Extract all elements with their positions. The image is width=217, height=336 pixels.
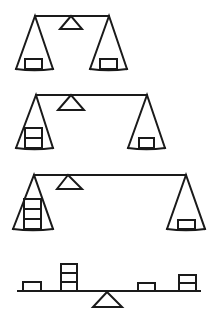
- pan-left: [16, 16, 53, 70]
- weight-block: [23, 282, 41, 291]
- weight-block: [179, 283, 196, 291]
- weight-block: [178, 220, 195, 229]
- balance-3: [13, 175, 205, 230]
- stack-near-right: [138, 283, 155, 291]
- fulcrum-triangle: [58, 95, 84, 110]
- weight-block: [138, 283, 155, 291]
- stack-near-left: [61, 264, 77, 291]
- fulcrum-triangle: [60, 16, 82, 29]
- weight-block: [61, 273, 77, 282]
- balance-scales-diagram: [0, 0, 217, 336]
- seesaw-lever: [18, 264, 200, 307]
- weight-block: [61, 264, 77, 273]
- weight-block: [24, 199, 41, 209]
- pan-left: [13, 175, 53, 230]
- stack-far-left: [23, 282, 41, 291]
- diagram-canvas: [0, 0, 217, 336]
- fulcrum-triangle: [93, 292, 122, 307]
- stack-far-right: [179, 275, 196, 291]
- weight-block: [24, 219, 41, 229]
- balance-1: [16, 16, 127, 70]
- weight-block: [25, 128, 42, 138]
- pan-right: [128, 95, 165, 149]
- weight-block: [100, 59, 117, 69]
- pan-left: [16, 95, 53, 149]
- weight-block: [25, 138, 42, 148]
- pan-right: [90, 16, 127, 70]
- pan-right: [167, 175, 205, 230]
- weight-block: [179, 275, 196, 283]
- weight-block: [25, 59, 42, 69]
- balance-2: [16, 95, 165, 149]
- weight-block: [139, 138, 154, 148]
- fulcrum-triangle: [57, 175, 82, 189]
- weight-block: [24, 209, 41, 219]
- weight-block: [61, 282, 77, 291]
